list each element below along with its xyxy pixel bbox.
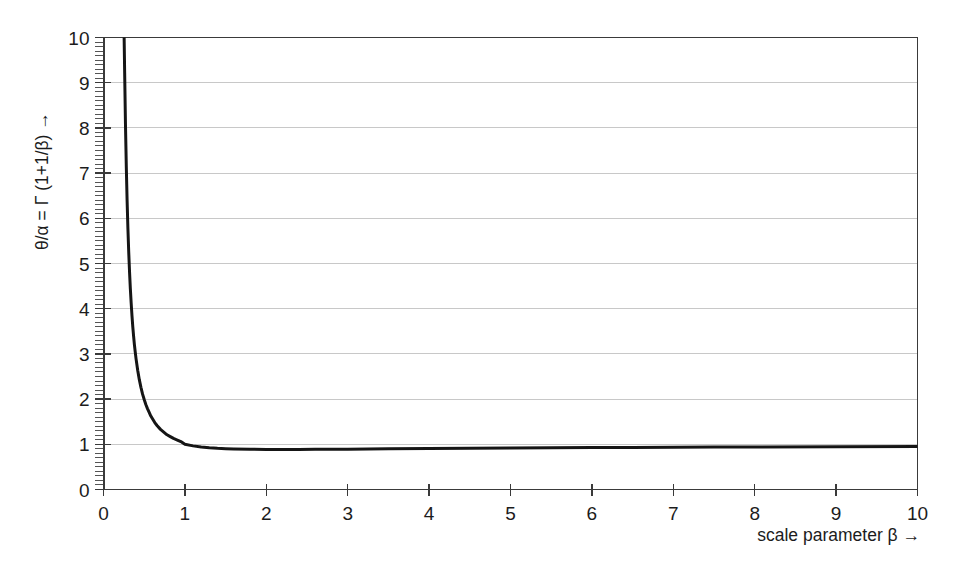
y-tick-label: 2: [79, 390, 90, 409]
y-tick-label: 3: [79, 344, 90, 363]
x-axis-title: scale parameter β →: [757, 527, 920, 545]
y-axis-title: θ/α = Γ (1+1/β) →: [34, 112, 52, 250]
y-tick-label: 1: [79, 435, 90, 454]
y-tick-label: 4: [79, 299, 90, 318]
y-tick-label: 8: [79, 118, 90, 137]
x-tick-label: 7: [668, 504, 679, 523]
x-tick-label: 2: [261, 504, 272, 523]
y-tick-label: 7: [79, 164, 90, 183]
y-tick-label: 9: [79, 73, 90, 92]
x-tick-label: 0: [98, 504, 109, 523]
y-tick-label: 5: [79, 254, 90, 273]
x-tick-label: 10: [907, 504, 928, 523]
data-curve: [124, 38, 917, 450]
data-curve-group: [124, 38, 917, 450]
x-tick-label: 8: [749, 504, 760, 523]
x-tick-label: 6: [587, 504, 598, 523]
x-tick-label: 3: [342, 504, 353, 523]
x-tick-label: 9: [831, 504, 842, 523]
y-tick-label: 10: [68, 28, 89, 47]
weibull-mean-ratio-chart: 012345678910 012345678910 θ/α = Γ (1+1/β…: [0, 0, 961, 578]
x-tick-label: 4: [424, 504, 435, 523]
plot-canvas: [0, 0, 961, 578]
y-axis-ticks: [95, 38, 111, 490]
x-tick-label: 1: [180, 504, 191, 523]
gridlines-group: [104, 38, 918, 445]
x-tick-label: 5: [505, 504, 516, 523]
y-tick-label: 6: [79, 209, 90, 228]
y-tick-label: 0: [79, 480, 90, 499]
